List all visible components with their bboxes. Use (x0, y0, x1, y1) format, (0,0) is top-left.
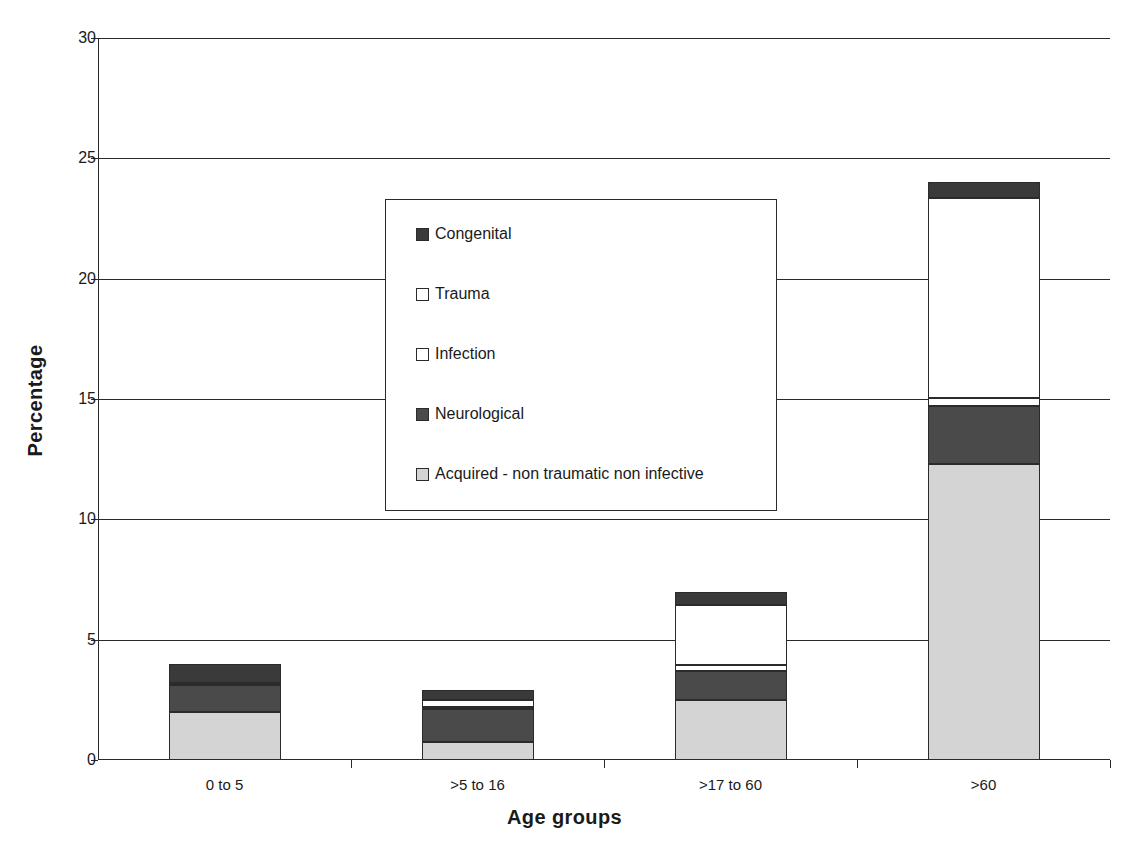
bar-segment (422, 700, 534, 707)
bar-segment (169, 664, 281, 683)
bar-segment (928, 198, 1040, 398)
bar-segment (675, 671, 787, 700)
bar-segment (928, 182, 1040, 198)
bar-segment (422, 742, 534, 760)
legend-label: Infection (435, 345, 495, 363)
bar-segment (928, 398, 1040, 406)
legend-swatch-icon (416, 468, 429, 481)
x-axis-tick (604, 760, 605, 768)
bar-segment (422, 690, 534, 700)
legend-swatch-icon (416, 408, 429, 421)
bar-segment (675, 605, 787, 665)
legend-label: Neurological (435, 405, 524, 423)
bar-stack (928, 38, 1040, 760)
y-axis-title-text: Percentage (25, 344, 48, 456)
x-tick-label: >17 to 60 (699, 776, 762, 793)
x-axis-tick (351, 760, 352, 768)
chart-container: Percentage 051015202530 0 to 5>5 to 16>1… (0, 0, 1129, 864)
legend-label: Trauma (435, 285, 490, 303)
bar-stack (169, 38, 281, 760)
y-tick-label: 25 (50, 149, 96, 167)
bar-segment (675, 700, 787, 760)
legend-label: Acquired - non traumatic non infective (435, 465, 704, 483)
bar-segment (169, 712, 281, 760)
legend-label: Congenital (435, 225, 512, 243)
x-tick-label: 0 to 5 (206, 776, 244, 793)
bar-segment (928, 464, 1040, 760)
legend: CongenitalTraumaInfectionNeurologicalAcq… (385, 199, 777, 511)
y-tick-label: 10 (50, 510, 96, 528)
bar-segment (422, 707, 534, 709)
bar-segment (169, 683, 281, 685)
x-axis-title: Age groups (0, 806, 1129, 829)
legend-swatch-icon (416, 288, 429, 301)
y-tick-label: 20 (50, 270, 96, 288)
legend-swatch-icon (416, 348, 429, 361)
x-axis-tick (857, 760, 858, 768)
bar-segment (675, 592, 787, 605)
y-tick-label: 30 (50, 29, 96, 47)
legend-item: Infection (416, 344, 495, 364)
legend-item: Congenital (416, 224, 512, 244)
bar-segment (422, 709, 534, 741)
y-tick-label: 5 (50, 631, 96, 649)
bar-segment (675, 665, 787, 671)
y-tick-label: 0 (50, 751, 96, 769)
y-tick-label: 15 (50, 390, 96, 408)
x-tick-label: >60 (971, 776, 996, 793)
x-axis-tick (1110, 760, 1111, 768)
bar-segment (169, 685, 281, 711)
bar-segment (928, 406, 1040, 464)
legend-swatch-icon (416, 228, 429, 241)
legend-item: Neurological (416, 404, 524, 424)
legend-item: Trauma (416, 284, 490, 304)
legend-item: Acquired - non traumatic non infective (416, 464, 704, 484)
x-tick-label: >5 to 16 (450, 776, 505, 793)
